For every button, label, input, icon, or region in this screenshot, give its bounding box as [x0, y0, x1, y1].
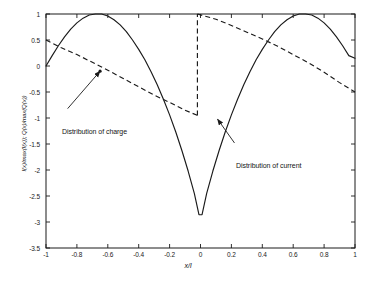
- x-tick-label: 0.8: [320, 251, 329, 258]
- x-tick-label: -1: [43, 251, 49, 258]
- x-tick-label: 1: [353, 251, 357, 258]
- y-tick-label: -3.5: [0, 245, 40, 252]
- series-distribution-of-current: [46, 14, 355, 215]
- x-tick-label: 0.4: [258, 251, 267, 258]
- series-distribution-of-charge: [46, 14, 355, 115]
- annotation-distribution-of-charge: Distribution of charge: [62, 128, 127, 135]
- x-tick-label: -0.6: [102, 251, 113, 258]
- figure-canvas: -1-0.8-0.6-0.4-0.200.20.40.60.81 10.50-0…: [0, 0, 377, 288]
- y-axis-title: I(x)/max(I(x)); Q(x)/max(Q(x)): [20, 64, 27, 204]
- x-tick-label: -0.4: [133, 251, 144, 258]
- x-tick-label: 0: [199, 251, 203, 258]
- annotation-distribution-of-current: Distribution of current: [236, 162, 301, 169]
- x-axis-title: x/l: [185, 262, 192, 269]
- x-tick-label: 0.6: [289, 251, 298, 258]
- y-tick-label: 0.5: [0, 37, 40, 44]
- x-tick-label: -0.8: [71, 251, 82, 258]
- chart-plot-area: [0, 0, 377, 288]
- x-tick-label: -0.2: [164, 251, 175, 258]
- y-tick-label: 1: [0, 11, 40, 18]
- y-tick-label: -3: [0, 219, 40, 226]
- x-tick-label: 0.2: [227, 251, 236, 258]
